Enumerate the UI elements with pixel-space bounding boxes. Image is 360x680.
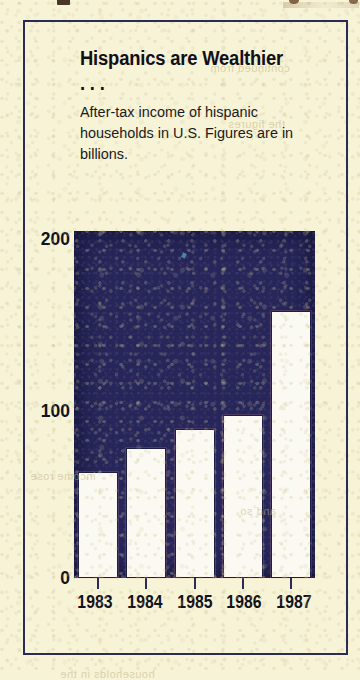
scan-artifact-block bbox=[57, 0, 70, 5]
chart-headline: Hispanics are Wealthier . . . bbox=[80, 46, 292, 96]
chart-subtitle: After-tax income of hispanic households … bbox=[80, 101, 299, 164]
scan-artifact-dot bbox=[349, 0, 358, 4]
scan-artifact-dot bbox=[289, 0, 299, 4]
ghost-text-e: households in the bbox=[60, 668, 155, 680]
figure-frame: Hispanics are Wealthier . . . After-tax … bbox=[23, 20, 348, 655]
scan-artifact-smudge bbox=[283, 2, 359, 8]
